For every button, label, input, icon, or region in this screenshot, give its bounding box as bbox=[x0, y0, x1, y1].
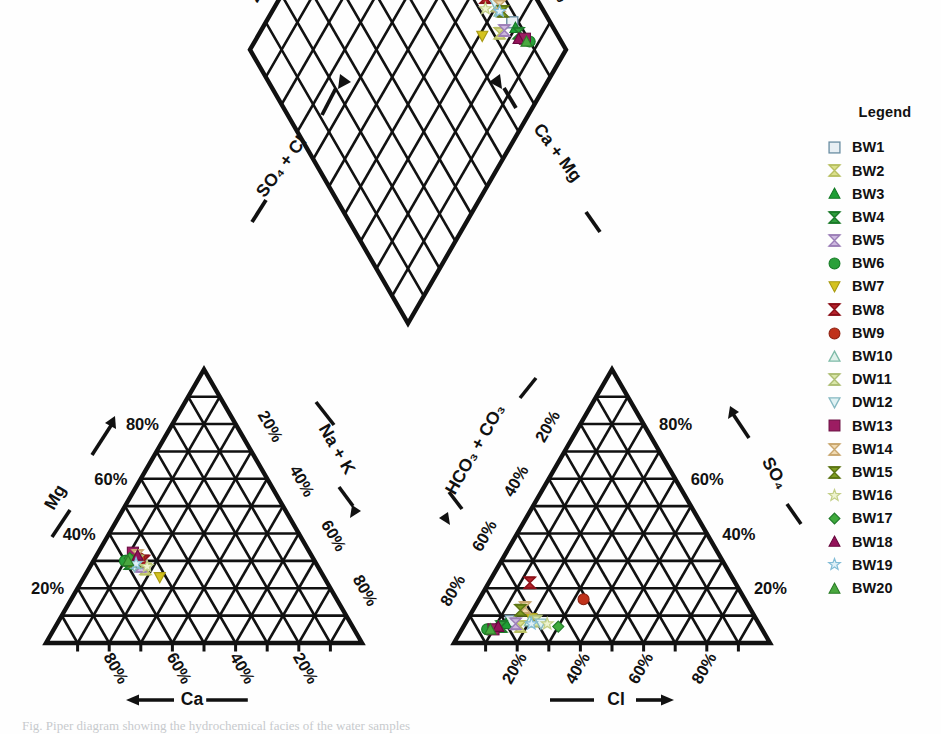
svg-text:60%: 60% bbox=[164, 649, 196, 687]
plot-outlines bbox=[46, 0, 770, 643]
svg-text:20%: 20% bbox=[290, 649, 322, 687]
svg-text:60%: 60% bbox=[624, 649, 656, 687]
legend-marker-hourglass-icon bbox=[826, 371, 843, 388]
legend-item-bw14[interactable]: BW14 bbox=[826, 437, 938, 460]
legend-marker-triangle-down-icon bbox=[826, 278, 843, 295]
legend-marker-hourglass-icon bbox=[826, 209, 843, 226]
legend-marker-triangle-up-open-icon bbox=[826, 348, 843, 365]
legend-item-label: BW15 bbox=[852, 465, 893, 480]
legend-item-bw8[interactable]: BW8 bbox=[826, 298, 938, 321]
legend-item-label: BW10 bbox=[852, 349, 893, 364]
legend-marker-triangle-down-open-icon bbox=[826, 394, 843, 411]
legend-item-label: BW8 bbox=[852, 303, 885, 318]
legend-item-label: BW14 bbox=[852, 442, 893, 457]
axis-labels: 20%40%60%80%20%40%60%80%80%60%40%20%CaMg… bbox=[31, 0, 801, 709]
svg-text:HCO₃ + CO₃: HCO₃ + CO₃ bbox=[441, 400, 509, 498]
legend-marker-triangle-up-icon bbox=[826, 580, 843, 597]
svg-text:60%: 60% bbox=[318, 517, 350, 555]
svg-text:80%: 80% bbox=[659, 415, 692, 433]
legend-item-bw6[interactable]: BW6 bbox=[826, 252, 938, 275]
svg-text:40%: 40% bbox=[500, 462, 532, 500]
svg-text:40%: 40% bbox=[722, 525, 755, 543]
legend-item-label: BW20 bbox=[852, 581, 893, 596]
data-point-bw8-anion bbox=[524, 577, 535, 588]
legend-list: BW1BW2BW3BW4BW5BW6BW7BW8BW9BW10DW11DW12B… bbox=[826, 136, 938, 600]
svg-text:Na + K: Na + K bbox=[315, 420, 360, 478]
legend-marker-hourglass-icon bbox=[826, 441, 843, 458]
svg-text:80%: 80% bbox=[100, 649, 132, 687]
svg-text:20%: 20% bbox=[255, 407, 287, 445]
legend-item-bw19[interactable]: BW19 bbox=[826, 553, 938, 576]
legend-item-bw10[interactable]: BW10 bbox=[826, 345, 938, 368]
legend-item-label: BW3 bbox=[852, 187, 885, 202]
legend-panel: Legend BW1BW2BW3BW4BW5BW6BW7BW8BW9BW10DW… bbox=[826, 104, 938, 600]
svg-text:SO₄: SO₄ bbox=[758, 453, 792, 492]
legend-marker-hourglass-icon bbox=[826, 464, 843, 481]
svg-text:20%: 20% bbox=[498, 649, 530, 687]
svg-text:20%: 20% bbox=[540, 0, 572, 5]
legend-item-bw7[interactable]: BW7 bbox=[826, 275, 938, 298]
legend-item-bw20[interactable]: BW20 bbox=[826, 577, 938, 600]
legend-title: Legend bbox=[832, 104, 938, 120]
legend-item-label: BW6 bbox=[852, 256, 885, 271]
legend-item-label: DW11 bbox=[852, 372, 892, 387]
legend-item-label: BW2 bbox=[852, 164, 885, 179]
legend-marker-circle-icon bbox=[826, 255, 843, 272]
svg-text:80%: 80% bbox=[126, 415, 159, 433]
legend-item-label: BW18 bbox=[852, 535, 893, 550]
legend-item-bw4[interactable]: BW4 bbox=[826, 206, 938, 229]
legend-item-bw13[interactable]: BW13 bbox=[826, 414, 938, 437]
legend-item-bw1[interactable]: BW1 bbox=[826, 136, 938, 159]
svg-text:20%: 20% bbox=[754, 579, 787, 597]
legend-item-bw3[interactable]: BW3 bbox=[826, 182, 938, 205]
svg-text:60%: 60% bbox=[691, 470, 724, 488]
legend-item-bw9[interactable]: BW9 bbox=[826, 322, 938, 345]
legend-marker-diamond-icon bbox=[826, 510, 843, 527]
svg-text:SO₄ + Cl: SO₄ + Cl bbox=[252, 132, 311, 201]
legend-item-dw11[interactable]: DW11 bbox=[826, 368, 938, 391]
piper-plot-canvas: 20%40%60%80%20%40%60%80%80%60%40%20%CaMg… bbox=[0, 0, 941, 734]
legend-marker-triangle-up-icon bbox=[826, 185, 843, 202]
legend-marker-star-open-icon bbox=[826, 556, 843, 573]
legend-item-bw2[interactable]: BW2 bbox=[826, 159, 938, 182]
svg-text:20%: 20% bbox=[31, 579, 64, 597]
svg-text:40%: 40% bbox=[63, 525, 96, 543]
legend-item-label: BW19 bbox=[852, 558, 893, 573]
legend-item-label: BW4 bbox=[852, 210, 885, 225]
svg-text:60%: 60% bbox=[468, 516, 500, 554]
legend-item-label: BW13 bbox=[852, 419, 893, 434]
data-point-bw9-anion bbox=[578, 594, 589, 605]
svg-text:60%: 60% bbox=[94, 470, 127, 488]
svg-text:40%: 40% bbox=[561, 649, 593, 687]
piper-diagram-figure: 20%40%60%80%20%40%60%80%80%60%40%20%CaMg… bbox=[0, 0, 941, 734]
svg-text:Ca + Mg: Ca + Mg bbox=[529, 119, 586, 185]
legend-item-bw15[interactable]: BW15 bbox=[826, 461, 938, 484]
legend-marker-hourglass-icon bbox=[826, 301, 843, 318]
legend-item-bw16[interactable]: BW16 bbox=[826, 484, 938, 507]
figure-caption-text: Fig. Piper diagram showing the hydrochem… bbox=[22, 718, 410, 733]
legend-item-label: DW12 bbox=[852, 395, 893, 410]
legend-item-bw5[interactable]: BW5 bbox=[826, 229, 938, 252]
legend-marker-square-open-icon bbox=[826, 139, 843, 156]
svg-text:20%: 20% bbox=[244, 0, 276, 5]
legend-marker-triangle-up-icon bbox=[826, 533, 843, 550]
legend-marker-hourglass-icon bbox=[826, 162, 843, 179]
svg-text:80%: 80% bbox=[688, 649, 720, 687]
legend-item-bw18[interactable]: BW18 bbox=[826, 530, 938, 553]
legend-item-dw12[interactable]: DW12 bbox=[826, 391, 938, 414]
legend-item-label: BW16 bbox=[852, 488, 893, 503]
legend-marker-circle-icon bbox=[826, 325, 843, 342]
legend-item-bw17[interactable]: BW17 bbox=[826, 507, 938, 530]
data-point-bw7-cation bbox=[154, 573, 165, 583]
svg-text:40%: 40% bbox=[286, 462, 318, 500]
figure-caption: Fig. Piper diagram showing the hydrochem… bbox=[22, 716, 812, 734]
svg-text:80%: 80% bbox=[350, 571, 382, 609]
legend-item-label: BW17 bbox=[852, 511, 893, 526]
legend-item-label: BW1 bbox=[852, 140, 885, 155]
legend-marker-hourglass-icon bbox=[826, 232, 843, 249]
svg-text:20%: 20% bbox=[531, 407, 563, 445]
legend-item-label: BW5 bbox=[852, 233, 885, 248]
legend-item-label: BW7 bbox=[852, 279, 885, 294]
svg-text:40%: 40% bbox=[227, 649, 259, 687]
legend-item-label: BW9 bbox=[852, 326, 885, 341]
